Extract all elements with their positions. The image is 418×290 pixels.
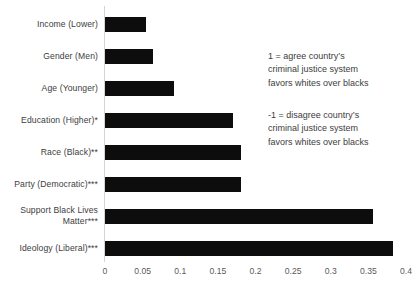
category-label-education: Education (Higher)* — [0, 115, 104, 126]
x-tick-4: 0.2 — [250, 266, 262, 276]
x-tick-0: 0 — [103, 266, 108, 276]
annotation-agree: 1 = agree country’s criminal justice sys… — [268, 50, 418, 90]
annotation-disagree: -1 = disagree country’s criminal justice… — [268, 109, 418, 149]
bar-ideology — [105, 241, 393, 256]
bar-education — [105, 113, 233, 128]
category-label-income: Income (Lower) — [0, 19, 104, 30]
x-tick-5: 0.25 — [285, 266, 302, 276]
category-label-blm: Support Black Lives Matter*** — [0, 205, 104, 226]
x-tick-1: 0.05 — [134, 266, 151, 276]
bar-chart: Income (Lower) Gender (Men) Age (Younger… — [0, 0, 418, 290]
x-tick-3: 0.15 — [210, 266, 227, 276]
category-label-ideology: Ideology (Liberal)*** — [0, 243, 104, 254]
bar-party — [105, 177, 241, 192]
category-label-party: Party (Democratic)*** — [0, 179, 104, 190]
x-axis: 0 0.05 0.1 0.15 0.2 0.25 0.3 0.35 0.4 — [104, 263, 418, 283]
x-tick-2: 0.1 — [174, 266, 186, 276]
x-tick-6: 0.3 — [325, 266, 337, 276]
bar-race — [105, 145, 241, 160]
category-label-gender: Gender (Men) — [0, 51, 104, 62]
bar-blm — [105, 209, 373, 224]
bar-income — [105, 17, 146, 32]
bar-age — [105, 81, 174, 96]
x-tick-8: 0.4 — [400, 266, 412, 276]
bar-gender — [105, 49, 153, 64]
category-label-race: Race (Black)** — [0, 147, 104, 158]
category-label-age: Age (Younger) — [0, 83, 104, 94]
x-tick-7: 0.35 — [360, 266, 377, 276]
